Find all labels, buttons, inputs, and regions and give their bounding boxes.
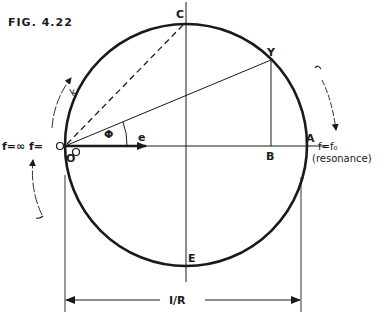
label-phi: Φ [104,128,113,141]
label-a: A [306,132,315,145]
right-frequency-label: f=f₀ [318,141,337,152]
dimension-label: I/R [169,294,186,307]
point-o-marker [57,143,64,150]
oc-dashed-line [67,24,184,144]
right-curved-arrow [322,80,336,130]
label-y: Y [266,46,276,59]
label-c: C [176,8,184,21]
lower-left-tick [36,216,43,218]
label-b: B [266,150,274,163]
circle-diagram: FIG. 4.22 C Y O A B E Φ e k f=∞ f= f=f₀ … [0,0,383,313]
oy-line [65,60,271,146]
lower-left-arrow-icon [32,160,42,215]
right-arrow-tick [315,66,321,69]
label-o: O [66,152,75,165]
label-e-vector: e [138,131,145,144]
resonance-label: (resonance) [312,153,372,164]
left-frequency-label: f=∞ f= [2,140,43,153]
label-e: E [188,252,196,265]
phi-angle-arc [123,122,127,146]
figure-title: FIG. 4.22 [8,16,73,29]
